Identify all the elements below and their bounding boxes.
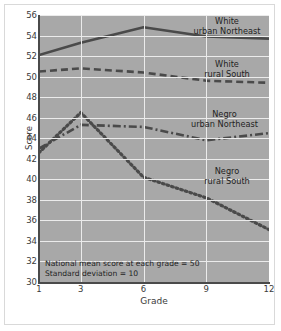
x-tick-label: 6	[129, 285, 159, 294]
series-lines	[39, 15, 269, 282]
gridline-horizontal	[39, 241, 269, 242]
series-label-negro-rural-south: Negro rural South	[189, 167, 265, 186]
x-tick-label: 3	[66, 285, 96, 294]
series-label-white-urban-northeast: White urban Northeast	[189, 17, 265, 36]
gridline-horizontal	[39, 220, 269, 221]
y-tick-label: 54	[7, 32, 37, 41]
y-tick-label: 56	[7, 11, 37, 20]
chart-figure: White urban Northeast White rural South …	[4, 4, 275, 325]
gridline-horizontal	[39, 56, 269, 57]
annotation-line-2: Standard deviation = 10	[45, 269, 200, 279]
series-label-line2: urban Northeast	[189, 27, 265, 37]
y-tick-label: 48	[7, 93, 37, 102]
x-axis-label: Grade	[39, 296, 269, 306]
x-tick-label: 12	[254, 285, 281, 294]
series-label-negro-urban-northeast: Negro urban Northeast	[184, 110, 265, 129]
y-axis-label: Score	[24, 108, 34, 168]
x-axis-line	[38, 282, 270, 284]
gridline-vertical	[206, 15, 207, 282]
y-axis-line	[38, 15, 40, 283]
y-tick-label: 38	[7, 196, 37, 205]
x-tick-label: 1	[24, 285, 54, 294]
y-tick-label: 50	[7, 73, 37, 82]
y-tick-label: 32	[7, 257, 37, 266]
gridline-horizontal	[39, 138, 269, 139]
gridline-horizontal	[39, 200, 269, 201]
gridline-vertical	[81, 15, 82, 282]
series-label-white-rural-south: White rural South	[189, 60, 265, 79]
plot-wrapper: White urban Northeast White rural South …	[5, 5, 276, 326]
gridline-horizontal	[39, 97, 269, 98]
annotation-note: National mean score at each grade = 50 S…	[45, 259, 200, 278]
y-tick-label: 40	[7, 175, 37, 184]
series-label-line2: rural South	[189, 70, 265, 80]
plot-area: White urban Northeast White rural South …	[39, 15, 269, 282]
y-tick-label: 52	[7, 52, 37, 61]
y-tick-label: 36	[7, 216, 37, 225]
annotation-line-1: National mean score at each grade = 50	[45, 259, 200, 269]
series-label-line2: urban Northeast	[184, 120, 265, 130]
x-tick-label: 9	[191, 285, 221, 294]
series-label-line2: rural South	[189, 177, 265, 187]
y-tick-label: 34	[7, 237, 37, 246]
gridline-vertical	[144, 15, 145, 282]
gridline-horizontal	[39, 159, 269, 160]
